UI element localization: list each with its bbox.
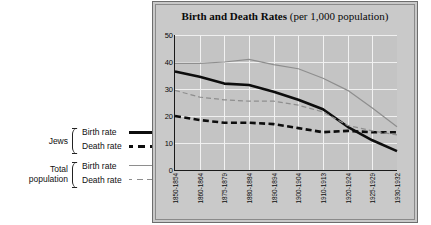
chart-legend: Jews Birth rate Death rate Total populat…: [4, 126, 152, 190]
legend-group-label-total-population: Total population: [4, 164, 68, 184]
brace-icon: [72, 162, 80, 188]
legend-group-label-jews: Jews: [4, 136, 68, 146]
plot-area: 01020304050 1850-18541860-18641875-18791…: [174, 35, 397, 171]
x-axis-tick-label: 1880-1884: [246, 173, 253, 204]
legend-group-label-line1: Total: [4, 164, 68, 174]
series-lines: [175, 35, 397, 170]
x-axis-tick-label: 1875-1879: [221, 173, 228, 204]
chart-panel: Birth and Death Rates (per 1,000 populat…: [152, 1, 418, 223]
legend-item-total-death-rate: Death rate: [82, 174, 152, 187]
x-axis-tick-label: 1900-1904: [295, 173, 302, 204]
series-line: [175, 59, 397, 127]
x-axis-tick-label: 1890-1894: [271, 173, 278, 204]
x-axis-tick-label: 1910-1913: [320, 173, 327, 204]
x-axis-tick-label: 1925-1929: [369, 173, 376, 204]
y-axis-tick-label: 40: [165, 59, 173, 66]
legend-item-jews-birth-rate: Birth rate: [82, 126, 152, 139]
series-line: [175, 71, 397, 151]
x-axis-tick-label: 1850-1854: [172, 173, 179, 204]
brace-icon: [72, 128, 80, 154]
legend-group-total-population: Total population Birth rate Death rate: [4, 160, 152, 190]
y-axis-tick-label: 20: [165, 113, 173, 120]
chart-title-main: Birth and Death Rates: [182, 10, 287, 22]
legend-item-total-birth-rate: Birth rate: [82, 160, 152, 173]
legend-label-total-death-rate: Death rate: [82, 174, 122, 186]
chart-title: Birth and Death Rates (per 1,000 populat…: [156, 10, 414, 22]
legend-group-jews: Jews Birth rate Death rate: [4, 126, 152, 156]
legend-label-total-birth-rate: Birth rate: [82, 160, 117, 172]
legend-item-jews-death-rate: Death rate: [82, 140, 152, 153]
series-line: [175, 116, 397, 132]
chart-panel-inner: Birth and Death Rates (per 1,000 populat…: [155, 4, 415, 220]
y-axis-tick-label: 30: [165, 86, 173, 93]
legend-label-jews-death-rate: Death rate: [82, 140, 122, 152]
y-axis-tick-label: 50: [165, 32, 173, 39]
x-axis-tick-label: 1920-1924: [345, 173, 352, 204]
x-axis-tick-label: 1860-1864: [197, 173, 204, 204]
x-axis-tick-label: 1930-1932: [394, 173, 401, 204]
legend-group-label-line2: population: [4, 174, 68, 184]
y-axis-tick-label: 10: [165, 140, 173, 147]
legend-label-jews-birth-rate: Birth rate: [82, 126, 117, 138]
chart-title-subtitle: (per 1,000 population): [287, 10, 388, 22]
